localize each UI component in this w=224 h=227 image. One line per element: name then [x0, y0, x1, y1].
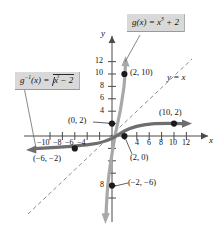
leader-point-m2-m6 [115, 183, 128, 186]
xtick-12: 12 [182, 139, 190, 147]
leader-ginv-box-to-curve [24, 87, 36, 148]
xtick-6: 6 [147, 139, 151, 147]
annotation-point-0-2: (0, 2) [68, 116, 86, 125]
point-m2-m6 [109, 183, 115, 189]
point-10-2 [171, 121, 177, 127]
ytick-8: 8 [100, 82, 104, 90]
point-0-2 [109, 121, 115, 127]
inverse-function-graph-figure: g(x) = x3 + 2 g−1(x) = 3x − 2 y x 12 10 … [0, 0, 224, 227]
equation-box-g-inverse: g−1(x) = 3x − 2 [15, 72, 80, 90]
cube-root-radical: 3x − 2 [52, 76, 75, 85]
xtick-10: 10 [169, 139, 177, 147]
xtick-4: 4 [135, 139, 139, 147]
annotation-y-equals-x: y = x [167, 73, 186, 82]
cubic-lower-arrowhead [102, 213, 110, 224]
leader-point-0-2 [93, 122, 109, 123]
x-axis-arrowhead [201, 133, 208, 140]
annotation-point-m2-m6: (−2, −6) [128, 178, 156, 187]
point-2-0 [121, 133, 127, 139]
annotation-point-10-2: (10, 2) [159, 108, 182, 117]
equation-box-g: g(x) = x3 + 2 [127, 14, 185, 32]
point-2-10 [121, 71, 127, 77]
ytick-6: 6 [100, 94, 104, 102]
x-axis-label: x [209, 136, 213, 145]
annotation-point-m6-m2: (−6, −2) [33, 154, 61, 163]
y-axis-label: y [101, 29, 105, 38]
cube-root-right-arrowhead [182, 119, 192, 127]
leader-g-box-to-curve [125, 35, 140, 62]
equation-g-arg: (x) = x [137, 17, 162, 27]
xtick-8: 8 [159, 139, 163, 147]
ytick-10: 10 [95, 69, 103, 77]
ytick-4: 4 [100, 107, 104, 115]
ytick-12: 12 [95, 57, 103, 65]
xtick-neg4: −4 [77, 139, 86, 147]
equation-ginv-arg: (x) = [31, 75, 52, 85]
ytick-neg8: 8 [100, 181, 104, 189]
annotation-point-2-10: (2, 10) [130, 68, 153, 77]
xtick-neg8: −8 [53, 139, 62, 147]
y-axis-arrowhead [109, 36, 116, 43]
xtick-neg6: −6 [65, 139, 74, 147]
equation-g-tail: + 2 [164, 17, 179, 27]
xtick-neg10: −10 [37, 139, 50, 147]
annotation-point-2-0: (2, 0) [130, 153, 148, 162]
coordinate-plane-svg [0, 0, 224, 227]
